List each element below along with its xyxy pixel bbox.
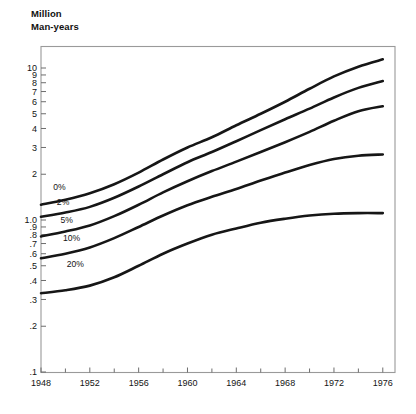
x-tick-label: 1956 [129,378,149,388]
series-label-20pct: 20% [67,259,85,269]
y-tick-label: 2 [32,169,37,179]
x-tick-label: 1960 [177,378,197,388]
x-axis-labels: 19481952195619601964196819721976 [31,378,393,388]
series-label-10pct: 10% [63,233,81,243]
y-tick-label: 6 [32,97,37,107]
y-tick-label: 7 [32,87,37,97]
curve-0pct [41,59,383,204]
data-curves [41,59,383,293]
y-tick-label: 5 [32,109,37,119]
y-tick-label: .3 [29,295,37,305]
y-tick-label: .1 [29,367,37,377]
x-tick-label: 1968 [275,378,295,388]
y-axis-ticks [41,68,46,372]
series-label-2pct: 2% [57,197,70,207]
x-tick-label: 1972 [324,378,344,388]
curve-5pct [41,106,383,236]
y-tick-label: .4 [29,276,37,286]
x-tick-label: 1952 [80,378,100,388]
x-tick-label: 1976 [373,378,393,388]
x-tick-label: 1948 [31,378,51,388]
y-tick-label: .7 [29,239,37,249]
series-label-5pct: 5% [61,215,74,225]
y-tick-label: .2 [29,321,37,331]
y-tick-label: 4 [32,124,37,134]
y-tick-label: .6 [29,249,37,259]
y-tick-label: .5 [29,261,37,271]
x-tick-label: 1964 [226,378,246,388]
x-axis-ticks [41,368,383,373]
y-tick-label: 3 [32,143,37,153]
y-axis-labels: 10987654321.0.9.8.7.6.5.4.3.2.1 [24,63,37,377]
series-label-0pct: 0% [53,182,66,192]
line-chart: 10987654321.0.9.8.7.6.5.4.3.2.1 19481952… [0,0,416,414]
chart-container: Million Man-years 10987654321.0.9.8.7.6.… [0,0,416,414]
